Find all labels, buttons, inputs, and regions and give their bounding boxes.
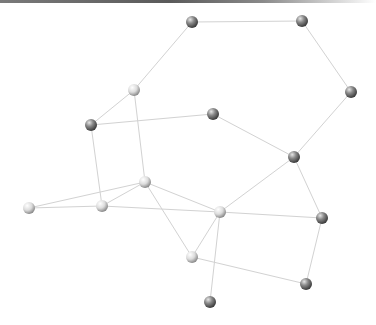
graph-node[interactable] [316, 212, 328, 224]
graph-edge [134, 90, 145, 182]
graph-edge [134, 22, 192, 90]
graph-node[interactable] [186, 16, 198, 28]
graph-node[interactable] [207, 108, 219, 120]
graph-edge [220, 212, 322, 218]
graph-edge [220, 157, 294, 212]
graph-edge [192, 257, 306, 284]
graph-node[interactable] [345, 86, 357, 98]
graph-node[interactable] [139, 176, 151, 188]
graph-edge [91, 90, 134, 125]
graph-edge [294, 157, 322, 218]
graph-edge [29, 206, 102, 208]
graph-node[interactable] [300, 278, 312, 290]
graph-node[interactable] [296, 15, 308, 27]
graph-node[interactable] [204, 296, 216, 308]
graph-edge [29, 182, 145, 208]
graph-node[interactable] [288, 151, 300, 163]
graph-node[interactable] [23, 202, 35, 214]
graph-edge [192, 21, 302, 22]
graph-edge [213, 114, 294, 157]
graph-node[interactable] [128, 84, 140, 96]
graph-node[interactable] [96, 200, 108, 212]
graph-node[interactable] [214, 206, 226, 218]
graph-node[interactable] [85, 119, 97, 131]
graph-edge [102, 182, 145, 206]
graph-edge [306, 218, 322, 284]
graph-edge [145, 182, 192, 257]
network-graph [0, 0, 376, 325]
graph-node[interactable] [186, 251, 198, 263]
node-layer [23, 15, 357, 308]
graph-edge [302, 21, 351, 92]
graph-edge [294, 92, 351, 157]
graph-edge [91, 114, 213, 125]
graph-edge [145, 182, 220, 212]
